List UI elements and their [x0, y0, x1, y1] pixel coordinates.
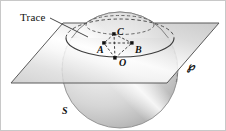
- label-point-b: B: [135, 45, 142, 55]
- label-point-c: C: [117, 27, 124, 37]
- dot-b: [130, 41, 133, 44]
- sphere-plane-trace-figure: Trace C A B O S ℘: [0, 0, 226, 131]
- label-sphere-s: S: [62, 106, 68, 116]
- label-trace: Trace: [20, 12, 46, 23]
- label-plane-p: ℘: [187, 61, 195, 72]
- label-point-a: A: [97, 45, 104, 55]
- dot-c: [112, 32, 115, 35]
- dot-o: [113, 56, 116, 59]
- label-point-o: O: [119, 58, 126, 68]
